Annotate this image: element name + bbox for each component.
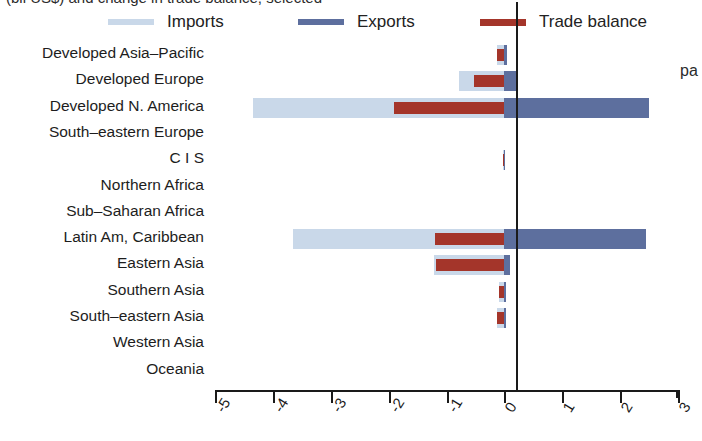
legend-label-exports: Exports bbox=[357, 12, 415, 32]
category-label: Sub–Saharan Africa bbox=[66, 203, 204, 218]
chart-title-text: (bil US$) and change in trade balance, s… bbox=[6, 0, 322, 6]
bar-row bbox=[215, 226, 678, 252]
bar-balance[interactable] bbox=[497, 49, 504, 61]
legend-item-exports[interactable]: Exports bbox=[298, 9, 415, 35]
chart-root: (bil US$) and change in trade balance, s… bbox=[0, 0, 702, 441]
x-axis-tick-label: 1 bbox=[559, 399, 578, 415]
bar-balance[interactable] bbox=[436, 259, 504, 271]
chart-legend: Imports Exports Trade balance bbox=[0, 9, 702, 35]
x-axis-tick-label: 2 bbox=[617, 399, 636, 415]
bar-exports[interactable] bbox=[504, 71, 516, 91]
bar-row bbox=[215, 252, 678, 278]
bar-row bbox=[215, 200, 678, 226]
bar-row bbox=[215, 147, 678, 173]
bar-row bbox=[215, 174, 678, 200]
plot-area: Developed Asia–PacificDeveloped EuropeDe… bbox=[0, 38, 702, 390]
bar-row bbox=[215, 358, 678, 384]
category-label: Western Asia bbox=[113, 334, 204, 349]
category-label-column: Developed Asia–PacificDeveloped EuropeDe… bbox=[0, 38, 208, 383]
bar-balance[interactable] bbox=[503, 154, 505, 166]
zero-axis-line bbox=[516, 2, 518, 391]
legend-item-trade-balance[interactable]: Trade balance bbox=[480, 9, 647, 35]
category-label: C I S bbox=[170, 150, 204, 165]
category-label: Developed Asia–Pacific bbox=[42, 45, 204, 60]
category-label: Developed Europe bbox=[76, 71, 204, 86]
legend-swatch-trade-balance bbox=[480, 19, 526, 26]
bar-row bbox=[215, 42, 678, 68]
bar-row bbox=[215, 95, 678, 121]
category-label: South–eastern Asia bbox=[70, 308, 204, 323]
legend-item-imports[interactable]: Imports bbox=[108, 9, 224, 35]
legend-swatch-imports bbox=[108, 19, 154, 25]
x-axis: -5-4-3-2-10123 bbox=[215, 390, 678, 441]
legend-label-trade-balance: Trade balance bbox=[539, 12, 647, 32]
bar-exports[interactable] bbox=[504, 282, 505, 302]
bar-row bbox=[215, 279, 678, 305]
legend-swatch-exports bbox=[298, 19, 344, 25]
category-label: Developed N. America bbox=[50, 98, 204, 113]
legend-label-imports: Imports bbox=[167, 12, 224, 32]
clipped-right-text: pa bbox=[678, 62, 702, 86]
x-axis-tick-label: 3 bbox=[675, 399, 694, 415]
bar-exports[interactable] bbox=[504, 308, 505, 328]
bar-row bbox=[215, 305, 678, 331]
bar-row bbox=[215, 121, 678, 147]
x-axis-tick-label: 0 bbox=[501, 399, 520, 415]
bar-balance[interactable] bbox=[499, 286, 505, 298]
clipped-right-text-value: pa bbox=[680, 62, 698, 80]
bar-exports[interactable] bbox=[504, 255, 510, 275]
category-label: Northern Africa bbox=[101, 177, 204, 192]
category-label: Southern Asia bbox=[107, 282, 204, 297]
category-label: Oceania bbox=[146, 361, 204, 376]
category-label: Latin Am, Caribbean bbox=[64, 229, 204, 244]
bar-balance[interactable] bbox=[497, 312, 504, 324]
bar-exports[interactable] bbox=[504, 150, 505, 170]
category-label: Eastern Asia bbox=[117, 255, 204, 270]
category-label: South–eastern Europe bbox=[49, 124, 204, 139]
bar-row bbox=[215, 331, 678, 357]
bar-balance[interactable] bbox=[394, 102, 504, 114]
bar-balance[interactable] bbox=[435, 233, 504, 245]
bar-balance[interactable] bbox=[474, 75, 504, 87]
bar-exports[interactable] bbox=[504, 45, 506, 65]
bars-area bbox=[215, 38, 678, 383]
bar-row bbox=[215, 68, 678, 94]
bar-exports[interactable] bbox=[504, 98, 649, 118]
bar-exports[interactable] bbox=[504, 229, 646, 249]
